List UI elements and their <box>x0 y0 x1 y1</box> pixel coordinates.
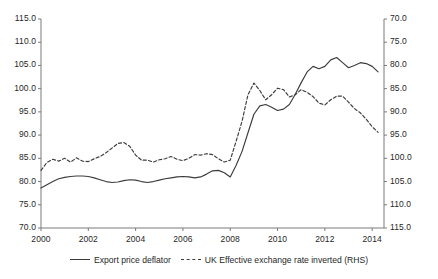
legend-item-uk-effective-exchange-rate-inverted: UK Effective exchange rate inverted (RHS… <box>181 255 368 265</box>
y-right-tick-label: 90.0 <box>390 106 438 116</box>
y-right-tick-label: 115.0 <box>390 222 438 232</box>
series-line-2 <box>41 83 378 170</box>
y-left-tick-label: 105.0 <box>0 59 36 69</box>
legend-label: Export price deflator <box>94 255 171 265</box>
legend-swatch-solid-line-icon <box>70 259 90 261</box>
x-tick-label: 2000 <box>24 234 58 244</box>
y-right-tick-label: 80.0 <box>390 59 438 69</box>
axes-group <box>38 19 387 231</box>
y-left-tick-label: 100.0 <box>0 83 36 93</box>
y-left-tick-label: 80.0 <box>0 176 36 186</box>
y-right-tick-label: 75.0 <box>390 36 438 46</box>
y-left-tick-label: 70.0 <box>0 222 36 232</box>
y-right-tick-label: 105.0 <box>390 176 438 186</box>
legend-item-export-price-deflator: Export price deflator <box>70 255 171 265</box>
y-right-tick-label: 110.0 <box>390 199 438 209</box>
y-left-tick-label: 95.0 <box>0 106 36 116</box>
y-left-tick-label: 90.0 <box>0 129 36 139</box>
series-group <box>41 58 378 189</box>
y-right-tick-label: 95.0 <box>390 129 438 139</box>
y-right-tick-label: 100.0 <box>390 152 438 162</box>
x-tick-label: 2006 <box>166 234 200 244</box>
y-right-tick-label: 70.0 <box>390 13 438 23</box>
x-tick-label: 2014 <box>355 234 389 244</box>
chart-container: 70.075.080.085.090.095.0100.0105.0110.01… <box>0 0 438 279</box>
x-tick-label: 2002 <box>71 234 105 244</box>
y-right-tick-label: 85.0 <box>390 83 438 93</box>
x-tick-label: 2004 <box>119 234 153 244</box>
y-left-tick-label: 110.0 <box>0 36 36 46</box>
legend-swatch-dashed-line-icon <box>181 259 201 261</box>
series-line-1 <box>41 58 378 189</box>
x-tick-label: 2012 <box>308 234 342 244</box>
x-tick-label: 2008 <box>213 234 247 244</box>
y-left-tick-label: 115.0 <box>0 13 36 23</box>
y-left-tick-label: 85.0 <box>0 152 36 162</box>
x-tick-label: 2010 <box>261 234 295 244</box>
y-left-tick-label: 75.0 <box>0 199 36 209</box>
legend-label: UK Effective exchange rate inverted (RHS… <box>205 255 368 265</box>
chart-legend: Export price deflator UK Effective excha… <box>0 255 438 265</box>
